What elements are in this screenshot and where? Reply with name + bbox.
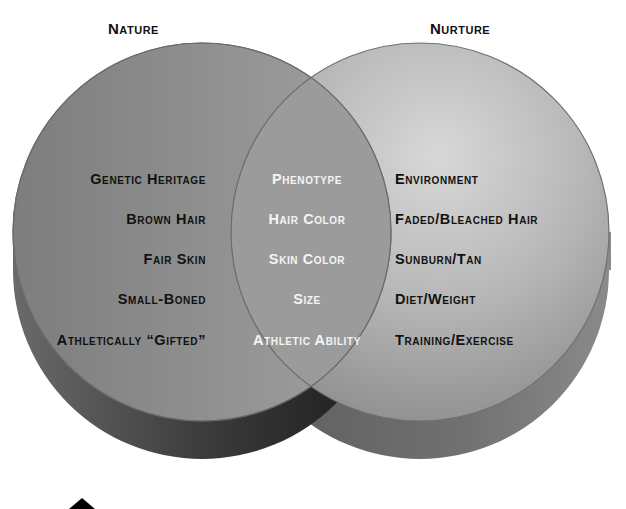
nurture-item: Diet/Weight bbox=[395, 291, 476, 307]
nature-item: Small-Boned bbox=[118, 291, 206, 307]
nurture-title: Nurture bbox=[430, 20, 490, 37]
overlap-item: Skin Color bbox=[269, 251, 345, 267]
nature-item: Brown Hair bbox=[126, 211, 206, 227]
nature-item: Fair Skin bbox=[144, 251, 206, 267]
nurture-item: Sunburn/Tan bbox=[395, 251, 482, 267]
nurture-item: Faded/Bleached Hair bbox=[395, 211, 538, 227]
nature-item: Genetic Heritage bbox=[90, 171, 206, 187]
overlap-item: Size bbox=[293, 291, 321, 307]
overlap-item: Athletic Ability bbox=[253, 332, 361, 348]
nature-item: Athletically “Gifted” bbox=[57, 332, 206, 348]
nurture-item: Environment bbox=[395, 171, 479, 187]
overlap-item: Hair Color bbox=[268, 211, 345, 227]
diamond-marker-icon bbox=[69, 498, 95, 509]
nurture-item: Training/Exercise bbox=[395, 332, 514, 348]
nature-title: Nature bbox=[108, 20, 159, 37]
venn-diagram: Nature Nurture Genetic Heritage Brown Ha… bbox=[0, 0, 626, 509]
overlap-item: Phenotype bbox=[272, 171, 342, 187]
